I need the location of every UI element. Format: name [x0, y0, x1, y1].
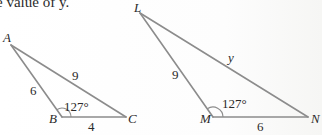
side-label-ab: 6 [30, 83, 37, 98]
vertex-label-m: M [199, 111, 212, 126]
side-label-mn: 6 [257, 119, 264, 134]
angle-label-m: 127° [222, 96, 247, 111]
vertex-label-l: L [133, 0, 141, 15]
side-label-lm: 9 [172, 67, 179, 82]
triangle-lmn: L M N 9 y 6 127° [133, 0, 321, 134]
side-label-bc: 4 [88, 119, 95, 134]
triangles-figure: A B C 6 9 4 127° L M N 9 y 6 127° [0, 0, 322, 135]
side-label-ac: 9 [72, 68, 79, 83]
side-lm [140, 13, 213, 117]
angle-label-b: 127° [64, 99, 89, 114]
vertex-label-b: B [49, 111, 57, 126]
vertex-label-c: C [128, 111, 137, 126]
side-ab [11, 45, 62, 117]
diagram-canvas: e value of y. A B C 6 9 4 127° L M N 9 [0, 0, 322, 135]
side-label-ln: y [226, 50, 234, 65]
vertex-label-a: A [2, 30, 11, 45]
triangle-abc: A B C 6 9 4 127° [2, 30, 137, 134]
vertex-label-n: N [310, 111, 321, 126]
